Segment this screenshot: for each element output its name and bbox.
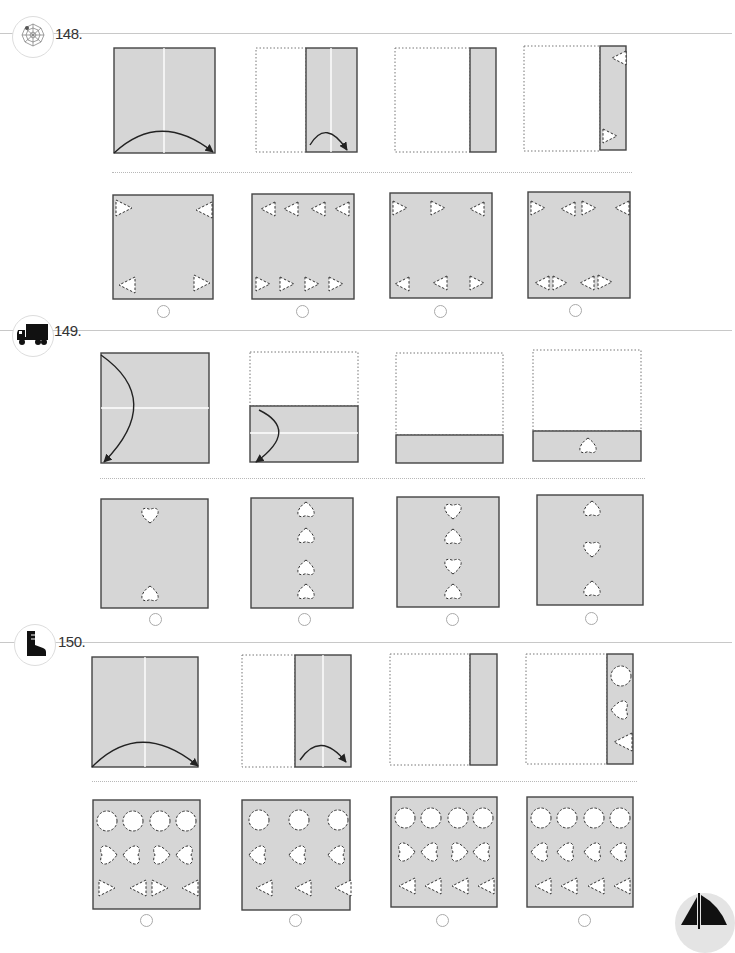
triangle-cutout — [433, 276, 447, 290]
circle-cutout — [123, 811, 143, 831]
circle-cutout — [611, 666, 631, 686]
fold-step-2 — [250, 406, 358, 462]
triangle-cutout — [535, 276, 549, 290]
fold-step-1 — [101, 353, 209, 463]
fold-step-4 — [600, 46, 626, 150]
circle-cutout — [395, 808, 415, 828]
answer-148-a — [113, 195, 213, 299]
fold-step-1 — [92, 657, 198, 767]
fold-step-3-unfolded — [395, 48, 470, 152]
answer-radio-150-b[interactable] — [289, 914, 302, 927]
problem-badge-148 — [12, 16, 54, 58]
circle-cutout — [448, 808, 468, 828]
triangle-cutout — [99, 880, 115, 896]
answer-150-c — [391, 797, 497, 907]
circle-cutout — [531, 808, 551, 828]
triangle-cutout — [470, 202, 484, 216]
circle-cutout — [328, 810, 348, 830]
fold-step-1 — [114, 48, 215, 153]
answer-149-a — [101, 499, 208, 608]
fold-step-2 — [306, 48, 357, 152]
answer-148-b — [252, 194, 354, 299]
separator-149 — [100, 478, 645, 479]
heart-cutout — [584, 542, 600, 557]
answer-radio-150-d[interactable] — [578, 914, 591, 927]
triangle-cutout — [531, 201, 545, 215]
circle-cutout — [584, 808, 604, 828]
answer-radio-149-b[interactable] — [298, 613, 311, 626]
heart-cutout — [445, 559, 461, 574]
fold-step-3-unfolded — [390, 654, 470, 765]
sailboat-icon — [675, 893, 735, 953]
heart-cutout — [557, 843, 573, 861]
triangle-cutout — [431, 201, 445, 215]
heart-cutout — [176, 846, 192, 864]
heart-cutout — [289, 846, 305, 864]
answer-150-a — [93, 800, 200, 909]
header-line-149 — [0, 330, 732, 331]
triangle-cutout — [614, 733, 632, 751]
fold-step-2 — [295, 655, 351, 767]
problem-badge-150 — [14, 624, 56, 666]
triangle-cutout — [553, 276, 567, 290]
answer-radio-150-a[interactable] — [140, 914, 153, 927]
answer-radio-148-d[interactable] — [569, 304, 582, 317]
heart-cutout — [421, 843, 437, 861]
triangle-cutout — [603, 129, 617, 143]
triangle-cutout — [196, 202, 212, 218]
triangle-cutout — [580, 276, 594, 290]
triangle-cutout — [256, 277, 270, 291]
answer-radio-149-a[interactable] — [149, 613, 162, 626]
heart-cutout — [399, 843, 415, 861]
triangle-cutout — [130, 880, 146, 896]
problem-number-148: 148. — [55, 25, 82, 42]
triangle-cutout — [582, 201, 596, 215]
triangle-cutout — [395, 277, 409, 291]
heart-cutout — [154, 846, 170, 864]
heart-cutout — [298, 502, 314, 517]
heart-cutout — [445, 504, 461, 519]
answer-148-d — [528, 192, 630, 298]
triangle-cutout — [425, 878, 441, 894]
triangle-cutout — [615, 201, 629, 215]
boot-icon — [21, 629, 49, 661]
fold-step-2-unfolded — [250, 352, 358, 406]
circle-cutout — [249, 810, 269, 830]
heart-cutout — [580, 438, 596, 453]
answer-radio-148-c[interactable] — [434, 305, 447, 318]
answer-radio-148-a[interactable] — [157, 305, 170, 318]
triangle-cutout — [305, 277, 319, 291]
heart-cutout — [610, 843, 626, 861]
triangle-cutout — [261, 202, 275, 216]
triangle-cutout — [335, 880, 351, 896]
answer-radio-148-b[interactable] — [296, 305, 309, 318]
fold-step-4 — [533, 431, 641, 461]
circle-cutout — [421, 808, 441, 828]
answer-150-d — [527, 797, 633, 907]
heart-cutout — [611, 701, 627, 719]
header-line-150 — [0, 642, 732, 643]
heart-cutout — [249, 846, 265, 864]
triangle-cutout — [182, 880, 198, 896]
heart-cutout — [298, 560, 314, 575]
answer-radio-149-c[interactable] — [446, 613, 459, 626]
answer-148-c — [390, 193, 492, 298]
heart-cutout — [452, 843, 468, 861]
triangle-cutout — [470, 276, 484, 290]
heart-cutout — [445, 529, 461, 544]
fold-arrow — [310, 133, 347, 150]
triangle-cutout — [295, 880, 311, 896]
fold-arrow — [92, 742, 198, 767]
fold-arrow — [256, 410, 279, 462]
answer-150-b — [242, 800, 350, 910]
triangle-cutout — [194, 275, 210, 291]
separator-150 — [92, 781, 637, 782]
triangle-cutout — [311, 202, 325, 216]
triangle-cutout — [399, 878, 415, 894]
fold-step-3 — [470, 48, 496, 152]
answer-radio-149-d[interactable] — [585, 612, 598, 625]
triangle-cutout — [614, 878, 630, 894]
triangle-cutout — [535, 878, 551, 894]
answer-radio-150-c[interactable] — [436, 914, 449, 927]
